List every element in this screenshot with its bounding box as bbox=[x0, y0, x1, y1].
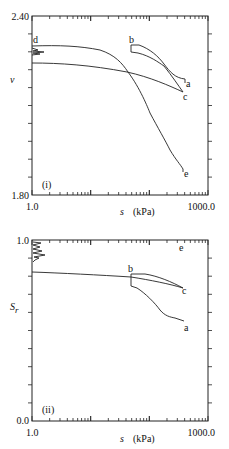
y-min-label: 0.0 bbox=[17, 415, 30, 426]
y-min-label: 1.80 bbox=[12, 190, 30, 201]
y-max-label: 1.0 bbox=[17, 235, 30, 246]
x-axis-symbol: s bbox=[120, 206, 124, 217]
curve-b-a bbox=[131, 274, 184, 321]
x-axis-unit: (kPa) bbox=[133, 206, 155, 218]
point-c-label: c bbox=[183, 91, 188, 102]
y-max-label: 2.40 bbox=[12, 11, 30, 22]
point-a-label: a bbox=[186, 78, 191, 89]
x-min-label: 1.0 bbox=[26, 427, 39, 438]
point-d-label: d bbox=[33, 34, 38, 45]
curve-d-c bbox=[32, 63, 183, 92]
point-c-label: c bbox=[182, 285, 187, 296]
y-axis-label: Sr bbox=[10, 301, 19, 315]
plot-frame-top bbox=[32, 16, 208, 195]
figure: 2.40 1.80 1.0 1000.0 v s (kPa) (i) d b a… bbox=[0, 0, 229, 449]
x-max-label: 1000.0 bbox=[188, 427, 216, 438]
plot-frame-bottom bbox=[32, 240, 208, 421]
scatter-cluster-d bbox=[32, 48, 44, 55]
curves-bottom bbox=[32, 242, 184, 321]
curve-main-c bbox=[32, 272, 183, 288]
curve-d-e bbox=[32, 46, 183, 172]
scatter-cluster-e bbox=[33, 242, 45, 262]
point-e-label: e bbox=[184, 168, 189, 179]
curve-b-c bbox=[131, 45, 183, 92]
x-axis-unit: (kPa) bbox=[133, 433, 155, 445]
y-axis-label: v bbox=[10, 74, 15, 85]
point-b-label: b bbox=[128, 263, 133, 274]
panel-label: (ii) bbox=[42, 404, 54, 416]
curves-top bbox=[32, 45, 185, 172]
point-e-label: e bbox=[179, 242, 184, 253]
point-b-label: b bbox=[129, 34, 134, 45]
x-axis-symbol: s bbox=[120, 433, 124, 444]
curve-b-a bbox=[131, 45, 185, 83]
panel-bottom: 1.0 0.0 1.0 1000.0 Sr s (kPa) (ii) b c a… bbox=[10, 235, 215, 445]
point-a-label: a bbox=[184, 322, 189, 333]
x-max-label: 1000.0 bbox=[188, 201, 216, 212]
x-min-label: 1.0 bbox=[26, 201, 39, 212]
panel-label: (i) bbox=[42, 179, 51, 191]
panel-top: 2.40 1.80 1.0 1000.0 v s (kPa) (i) d b a… bbox=[10, 11, 215, 218]
